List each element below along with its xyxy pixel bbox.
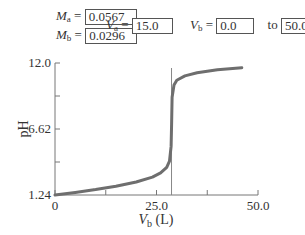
x-tick-label: 50.0	[247, 198, 270, 213]
ph-curve	[55, 68, 242, 195]
y-tick-label: 1.24	[28, 187, 51, 202]
x-tick-label: 25.0	[145, 198, 168, 213]
y-tick-label: 12.0	[28, 55, 51, 70]
axes: 025.050.01.246.6212.0	[28, 55, 269, 213]
y-axis-label: pH	[16, 120, 31, 137]
titration-chart: 025.050.01.246.6212.0 pH Vb (L)	[0, 0, 305, 235]
x-tick-label: 0	[52, 198, 59, 213]
x-axis-label: Vb (L)	[139, 212, 174, 229]
y-tick-label: 6.62	[28, 121, 51, 136]
